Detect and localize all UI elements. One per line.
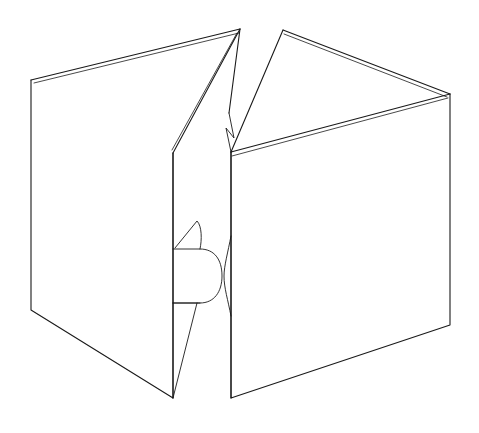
- left-flap-top-edge: [31, 29, 240, 80]
- left-flap-fold-edge: [173, 29, 240, 153]
- right-flap-inner-edge: [284, 34, 447, 97]
- tab-tongue-outline: [175, 221, 201, 249]
- tab-body-outline: [173, 249, 222, 303]
- left-side-panel-fill: [31, 80, 173, 398]
- tab-right-bulge: [224, 236, 231, 316]
- upper-seam-notch: [226, 113, 234, 152]
- right-side-panel-fill: [231, 94, 450, 398]
- left-flap-ridge: [229, 29, 240, 113]
- face-fills: [31, 80, 450, 398]
- tab-diagonal-crease: [173, 303, 197, 398]
- upper-notch-outline: [226, 113, 234, 152]
- illustration-canvas: Open cardboard box line drawing Outline …: [0, 0, 479, 433]
- open-box-illustration: [0, 0, 479, 433]
- left-flap-inner-edge: [34, 33, 239, 83]
- right-flap-top-edge: [283, 30, 450, 94]
- right-flap-left-edge: [231, 30, 283, 152]
- hand-hole-tab: [173, 221, 231, 398]
